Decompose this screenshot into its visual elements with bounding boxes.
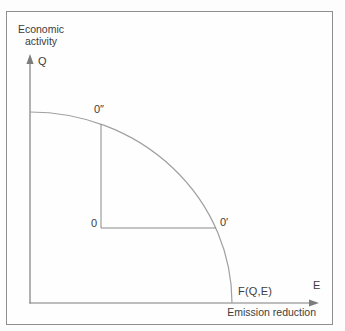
transformation-curve [30, 112, 232, 303]
curve-function-label: F(Q,E) [238, 285, 272, 297]
y-axis-arrowhead-icon [26, 54, 33, 64]
x-axis-title: Emission reduction [216, 306, 316, 318]
point-label-0-double-prime: 0″ [94, 103, 104, 115]
y-axis-symbol-label: Q [38, 55, 47, 67]
point-label-0: 0 [84, 217, 97, 229]
y-axis-title: Economic activity [10, 23, 72, 47]
figure-canvas: Economic activity Q 0″ 0 0′ F(Q,E) E Emi… [0, 0, 345, 331]
point-label-0-prime: 0′ [220, 216, 228, 228]
diagram-graphics [0, 0, 345, 331]
x-axis-symbol-label: E [313, 279, 320, 291]
